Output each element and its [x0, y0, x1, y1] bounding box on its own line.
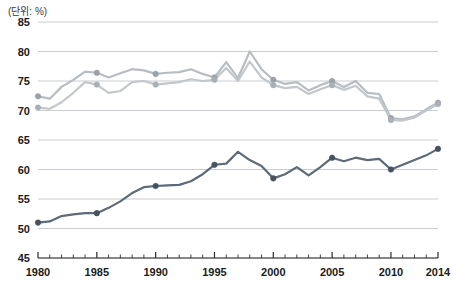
data-point-marker — [212, 162, 218, 168]
data-series-group — [38, 52, 438, 223]
x-axis-tick-label: 1995 — [202, 266, 226, 278]
y-axis-tick-label: 50 — [18, 223, 30, 235]
y-axis-tick-label: 80 — [18, 46, 30, 58]
x-axis-group — [38, 252, 438, 258]
y-axis-tick-label: 55 — [18, 193, 30, 205]
data-point-marker — [329, 82, 335, 88]
x-axis-tick-label: 2010 — [379, 266, 403, 278]
x-axis-tick-label: 2005 — [320, 266, 344, 278]
data-point-marker — [435, 101, 441, 107]
gridlines-group — [38, 22, 438, 258]
y-axis-tick-label: 70 — [18, 105, 30, 117]
data-point-marker — [153, 183, 159, 189]
data-point-marker — [388, 117, 394, 123]
data-point-marker — [388, 167, 394, 173]
y-axis-tick-label: 75 — [18, 75, 30, 87]
x-axis-tick-label: 1985 — [85, 266, 109, 278]
x-axis-tick-label: 1980 — [26, 266, 50, 278]
x-axis-tick-label: 2014 — [426, 266, 451, 278]
data-point-marker — [270, 176, 276, 182]
chart-container: (단위: %) 455055606570758085 1980198519901… — [0, 0, 452, 286]
x-axis-tick-label: 2000 — [261, 266, 285, 278]
y-axis-tick-label: 60 — [18, 164, 30, 176]
data-point-marker — [35, 105, 41, 111]
data-point-marker — [270, 77, 276, 83]
data-point-marker — [94, 210, 100, 216]
data-point-marker — [153, 82, 159, 88]
y-axis-tick-label: 85 — [18, 16, 30, 28]
y-axis-labels-group: 455055606570758085 — [18, 16, 30, 264]
data-point-marker — [94, 82, 100, 88]
data-point-marker — [270, 82, 276, 88]
x-axis-tick-label: 1990 — [143, 266, 167, 278]
y-axis-tick-label: 65 — [18, 134, 30, 146]
data-point-marker — [329, 155, 335, 161]
data-point-marker — [212, 77, 218, 83]
data-point-marker — [435, 146, 441, 152]
data-point-marker — [35, 220, 41, 226]
x-axis-labels-group: 19801985199019952000200520102014 — [26, 266, 451, 278]
line-chart: 455055606570758085 198019851990199520002… — [0, 0, 452, 286]
data-point-marker — [153, 71, 159, 77]
data-point-marker — [94, 70, 100, 76]
y-axis-tick-label: 45 — [18, 252, 30, 264]
data-point-marker — [35, 94, 41, 100]
